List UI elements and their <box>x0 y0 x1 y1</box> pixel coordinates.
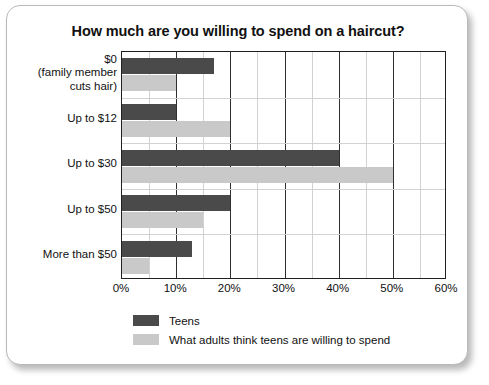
y-axis-label-line: Up to $12 <box>9 112 117 126</box>
x-axis-tick-label: 20% <box>206 282 252 294</box>
y-axis-label: Up to $30 <box>9 157 117 171</box>
bar-teens <box>122 58 214 74</box>
y-axis-label-line: Up to $30 <box>9 157 117 171</box>
bar-adults <box>122 212 203 228</box>
x-axis-tick-label: 0% <box>98 282 144 294</box>
bar-teens <box>122 150 339 166</box>
category-separator <box>122 234 445 235</box>
legend-swatch-icon <box>133 334 159 345</box>
x-axis-tick-label: 40% <box>315 282 361 294</box>
bar-teens <box>122 241 192 257</box>
chart-card: How much are you willing to spend on a h… <box>6 5 468 365</box>
chart-legend: TeensWhat adults think teens are willing… <box>133 311 390 349</box>
chart-title: How much are you willing to spend on a h… <box>7 23 469 39</box>
x-axis-tick-label: 30% <box>261 282 307 294</box>
y-axis-label: Up to $50 <box>9 203 117 217</box>
legend-label: Teens <box>169 315 200 327</box>
plot-area <box>121 51 446 279</box>
y-axis-label: $0(family membercuts hair) <box>9 53 117 94</box>
bar-adults <box>122 121 230 137</box>
y-axis-label-line: cuts hair) <box>9 80 117 94</box>
legend-label: What adults think teens are willing to s… <box>169 334 390 346</box>
x-axis-tick-label: 60% <box>423 282 469 294</box>
bar-teens <box>122 104 176 120</box>
y-axis-label-line: More than $50 <box>9 248 117 262</box>
gridline-minor <box>420 52 421 278</box>
category-separator <box>122 189 445 190</box>
gridline-major <box>393 52 394 278</box>
bar-teens <box>122 195 230 211</box>
category-separator <box>122 143 445 144</box>
category-separator <box>122 98 445 99</box>
y-axis-category-labels: $0(family membercuts hair)Up to $12Up to… <box>7 51 117 279</box>
bar-adults <box>122 75 176 91</box>
y-axis-label-line: (family member <box>9 66 117 80</box>
x-axis-tick-labels: 0%10%20%30%40%50%60% <box>121 282 446 300</box>
y-axis-label: Up to $12 <box>9 112 117 126</box>
legend-swatch-icon <box>133 315 159 326</box>
gridline-minor <box>366 52 367 278</box>
bar-adults <box>122 167 393 183</box>
gridline-major <box>339 52 340 278</box>
bar-adults <box>122 258 149 274</box>
y-axis-label: More than $50 <box>9 248 117 262</box>
y-axis-label-line: $0 <box>9 53 117 67</box>
legend-item: What adults think teens are willing to s… <box>133 330 390 349</box>
legend-item: Teens <box>133 311 390 330</box>
x-axis-tick-label: 10% <box>152 282 198 294</box>
y-axis-label-line: Up to $50 <box>9 203 117 217</box>
x-axis-tick-label: 50% <box>369 282 415 294</box>
